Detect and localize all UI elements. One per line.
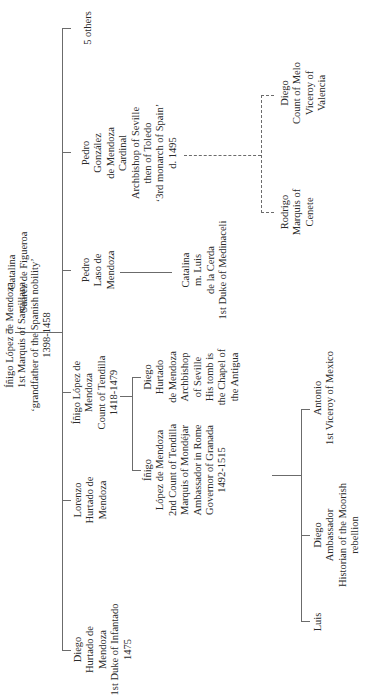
tick-rodrigo	[261, 212, 274, 213]
line: Mendoza	[97, 455, 109, 545]
person-luis: Luis	[312, 604, 324, 640]
tick-diego-archbishop	[132, 377, 141, 378]
line: 1st Viceroy of Mexico	[324, 343, 336, 453]
line: the Chapel of	[216, 339, 228, 415]
line: Íñigo López de	[71, 345, 83, 440]
line: Luis	[312, 604, 324, 640]
line: Archbishop of Seville	[130, 88, 142, 218]
line: López de Mendoza	[154, 412, 166, 528]
tick-lorenzo	[62, 500, 71, 501]
person-inigo-2nd-count: Íñigo López de Mendoza 2nd Count of Tend…	[142, 412, 229, 528]
pedro-gonzalez-dashed-bar	[261, 95, 262, 213]
line: Ambassador	[324, 467, 336, 603]
line: Mendoza	[105, 238, 117, 302]
line: González	[92, 88, 104, 218]
line: Antonio	[312, 343, 324, 453]
line: Archbishop	[179, 339, 191, 415]
line: de Mendoza	[105, 88, 117, 218]
line: Hurtado de	[84, 455, 96, 545]
line: 1492-1515	[216, 412, 228, 528]
person-rodrigo: Rodrigo Marquis of Cenete	[279, 174, 316, 250]
pedro-laso-descent	[120, 272, 172, 273]
inigo-count-children-bar	[132, 377, 133, 471]
line: rebellion	[349, 467, 361, 603]
line: Rodrigo	[279, 174, 291, 250]
line: de la Cerda	[205, 212, 217, 328]
tick-pedro-laso	[62, 270, 71, 271]
line: Hurtado	[154, 339, 166, 415]
tick-diego-historian	[301, 535, 310, 536]
line: Pedro	[80, 238, 92, 302]
line: 1475	[122, 587, 134, 699]
inigo-2nd-descent	[272, 475, 301, 476]
tick-luis	[301, 621, 310, 622]
line: Catalina	[180, 212, 192, 328]
tick-inigo-2nd	[132, 470, 141, 471]
surname: Suárez de Figueroa	[18, 222, 30, 322]
tick-pedro-gonzalez	[62, 152, 71, 153]
name: Catalina	[6, 222, 18, 322]
dates: 1398-1458	[41, 215, 53, 455]
line: Marquis of Mondéjar	[179, 412, 191, 528]
line: 5 others	[82, 0, 94, 56]
tick-diego	[62, 650, 71, 651]
line: 1st Duke of Infantado	[109, 587, 121, 699]
person-lorenzo: Lorenzo Hurtado de Mendoza	[72, 455, 109, 545]
line: ‘3rd monarch of Spain’	[154, 88, 166, 218]
inigo-2nd-children-bar	[301, 409, 302, 622]
person-inigo-count-tendilla: Íñigo López de Mendoza Count of Tendilla…	[71, 345, 121, 440]
line: Cardinal	[117, 88, 129, 218]
line: Marquis of	[291, 174, 303, 250]
person-antonio: Antonio 1st Viceroy of Mexico	[312, 343, 337, 453]
person-pedro-gonzalez: Pedro González de Mendoza Cardinal Archb…	[80, 88, 179, 218]
line: Lorenzo	[72, 455, 84, 545]
line: of Seville	[192, 339, 204, 415]
others-label: 5 others	[82, 0, 94, 56]
line: Mendoza	[97, 587, 109, 699]
line: His tomb is	[204, 339, 216, 415]
person-diego-historian: Diego Ambassador Historian of the Mooris…	[312, 467, 362, 603]
pedro-gonzalez-dashed-descent	[184, 155, 261, 156]
line: d. 1495	[167, 88, 179, 218]
line: Viceroy of	[304, 52, 316, 134]
line: Pedro	[80, 88, 92, 218]
line: m. Luis	[192, 212, 204, 328]
line: 2nd Count of Tendilla	[167, 412, 179, 528]
line: Diego	[142, 339, 154, 415]
person-spouse: Catalina Suárez de Figueroa	[6, 222, 31, 322]
tick-diego-melo	[261, 95, 274, 96]
line: 1418-1479	[108, 345, 120, 440]
line: Count of Tendilla	[96, 345, 108, 440]
person-diego-archbishop: Diego Hurtado de Mendoza Archbishop of S…	[142, 339, 241, 415]
line: de Mendoza	[167, 339, 179, 415]
line: Cenete	[304, 174, 316, 250]
line: Ambassador in Rome	[192, 412, 204, 528]
line: Historian of the Moorish	[337, 467, 349, 603]
person-pedro-laso: Pedro Laso de Mendoza	[80, 238, 117, 302]
line: Hurtado de	[84, 587, 96, 699]
line: Laso de	[92, 238, 104, 302]
line: Diego	[312, 467, 324, 603]
line: Valencia	[316, 52, 328, 134]
person-diego-infantado: Diego Hurtado de Mendoza 1st Duke of Inf…	[72, 587, 134, 699]
person-catalina-medinaceli: Catalina m. Luis de la Cerda 1st Duke of…	[180, 212, 230, 328]
line: the Antigua	[229, 339, 241, 415]
tick-others	[62, 28, 71, 29]
person-diego-melo: Diego Count of Melo Viceroy of Valencia	[279, 52, 329, 134]
tick-inigo-count	[62, 392, 71, 393]
line: Mendoza	[83, 345, 95, 440]
inigo-count-descent	[120, 396, 132, 397]
tick-antonio	[301, 409, 310, 410]
children-bar	[62, 28, 63, 651]
line: Diego	[279, 52, 291, 134]
line: Diego	[72, 587, 84, 699]
line: 1st Duke of Medinaceli	[217, 212, 229, 328]
line: then of Toledo	[142, 88, 154, 218]
line: Count of Melo	[291, 52, 303, 134]
line: Íñigo	[142, 412, 154, 528]
line: Governor of Granada	[204, 412, 216, 528]
